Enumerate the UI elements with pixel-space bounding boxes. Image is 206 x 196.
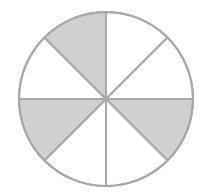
fraction-circle-diagram: Circle divided into 8 equal parts, 3 sha… bbox=[0, 0, 206, 196]
